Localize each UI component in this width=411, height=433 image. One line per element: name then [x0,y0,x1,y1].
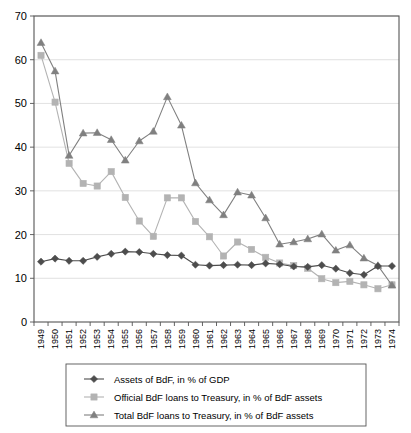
x-axis-label: 1961 [205,329,215,349]
legend-label: Official BdF loans to Treasury, in % of … [114,392,322,403]
square-marker-icon [122,194,128,200]
legend-label: Total BdF loans to Treasury, in % of BdF… [114,410,314,421]
x-axis-label: 1967 [289,329,299,349]
x-axis-label: 1971 [345,329,355,349]
x-axis-label: 1954 [106,329,116,349]
square-marker-icon [38,52,44,58]
x-axis-label: 1963 [233,329,243,349]
x-axis-label: 1974 [387,329,397,349]
y-axis-label: 70 [15,10,27,22]
square-marker-icon [178,195,184,201]
square-marker-icon [206,234,212,240]
x-axis-label: 1972 [359,329,369,349]
square-marker-icon [52,99,58,105]
square-marker-icon [319,276,325,282]
x-axis-label: 1962 [219,329,229,349]
square-marker-icon [361,282,367,288]
x-axis-label: 1968 [303,329,313,349]
line-chart: 1949195019511952195319541955195619571958… [0,0,411,433]
x-axis-label: 1957 [149,329,159,349]
x-axis-label: 1958 [163,329,173,349]
square-marker-icon [347,278,353,284]
square-marker-icon [220,253,226,259]
square-marker-icon [94,183,100,189]
x-axis-label: 1960 [191,329,201,349]
x-axis-label: 1955 [120,329,130,349]
x-axis-label: 1952 [78,329,88,349]
y-axis-label: 0 [21,316,27,328]
x-axis-label: 1966 [275,329,285,349]
square-marker-icon [91,394,97,400]
square-marker-icon [234,239,240,245]
square-marker-icon [375,286,381,292]
square-marker-icon [333,280,339,286]
x-axis-label: 1949 [36,329,46,349]
y-axis-label: 60 [15,54,27,66]
y-axis-label: 10 [15,272,27,284]
x-axis-label: 1964 [247,329,257,349]
legend-label: Assets of BdF, in % of GDP [114,374,230,385]
x-axis-label: 1950 [50,329,60,349]
y-axis-label: 30 [15,185,27,197]
square-marker-icon [192,218,198,224]
square-marker-icon [164,195,170,201]
square-marker-icon [80,180,86,186]
x-axis-label: 1970 [331,329,341,349]
square-marker-icon [136,218,142,224]
square-marker-icon [248,246,254,252]
chart-legend: Assets of BdF, in % of GDPOfficial BdF l… [66,364,366,426]
y-axis-label: 20 [15,229,27,241]
x-axis-label: 1956 [134,329,144,349]
square-marker-icon [108,169,114,175]
square-marker-icon [66,160,72,166]
y-axis-label: 50 [15,97,27,109]
y-axis-label: 40 [15,141,27,153]
legend-entry[interactable]: Official BdF loans to Treasury, in % of … [84,392,322,403]
square-marker-icon [150,233,156,239]
x-axis-label: 1965 [261,329,271,349]
x-axis-label: 1973 [373,329,383,349]
x-axis-label: 1953 [92,329,102,349]
x-axis-label: 1959 [177,329,187,349]
legend-entry[interactable]: Total BdF loans to Treasury, in % of BdF… [84,410,314,421]
chart-container: 1949195019511952195319541955195619571958… [0,0,411,433]
x-axis-label: 1951 [64,329,74,349]
x-axis-label: 1969 [317,329,327,349]
